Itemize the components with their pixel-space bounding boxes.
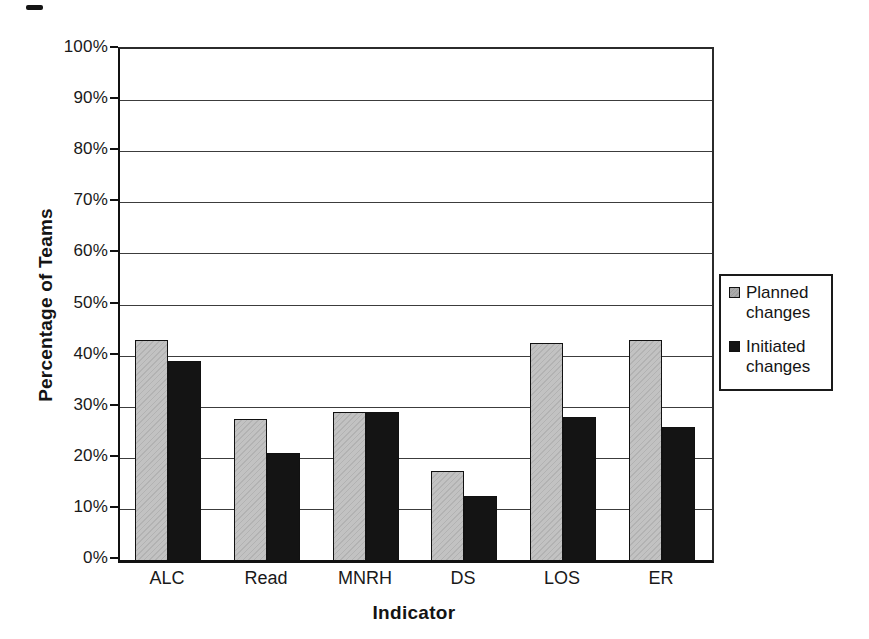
gridline-30 bbox=[120, 407, 712, 408]
y-tick-mark-20 bbox=[110, 455, 118, 457]
bar-group-alc bbox=[135, 340, 201, 560]
gridline-50 bbox=[120, 305, 712, 306]
y-tick-label-80: 80% bbox=[56, 140, 108, 158]
bar-initiated-ds bbox=[464, 496, 497, 560]
x-tick-label-er: ER bbox=[613, 568, 709, 589]
bar-planned-los bbox=[530, 343, 563, 560]
bar-initiated-alc bbox=[168, 361, 201, 560]
y-tick-label-20: 20% bbox=[56, 447, 108, 465]
legend-entry-initiated: Initiated changes bbox=[729, 337, 825, 377]
gridline-60 bbox=[120, 253, 712, 254]
bar-planned-alc bbox=[135, 340, 168, 560]
plot-area bbox=[118, 47, 714, 563]
bar-group-er bbox=[629, 340, 695, 560]
legend-entry-planned: Planned changes bbox=[729, 283, 825, 323]
bar-group-mnrh bbox=[333, 412, 399, 560]
gridline-40 bbox=[120, 356, 712, 357]
bar-chart-figure: Percentage of Teams 100%90%80%70%60%50%4… bbox=[0, 0, 869, 639]
bar-planned-read bbox=[234, 419, 267, 560]
y-tick-label-50: 50% bbox=[56, 294, 108, 312]
legend-label-planned: Planned changes bbox=[746, 283, 825, 323]
x-tick-label-mnrh: MNRH bbox=[317, 568, 413, 589]
gridline-70 bbox=[120, 202, 712, 203]
y-tick-mark-0 bbox=[110, 557, 118, 559]
y-tick-mark-70 bbox=[110, 199, 118, 201]
y-tick-mark-30 bbox=[110, 404, 118, 406]
initiated-swatch-icon bbox=[729, 341, 740, 352]
y-tick-label-40: 40% bbox=[56, 345, 108, 363]
x-tick-label-los: LOS bbox=[514, 568, 610, 589]
y-tick-label-0: 0% bbox=[56, 549, 108, 567]
y-tick-mark-80 bbox=[110, 148, 118, 150]
bar-initiated-er bbox=[662, 427, 695, 560]
y-tick-label-30: 30% bbox=[56, 396, 108, 414]
scan-artifact-mark bbox=[26, 5, 43, 10]
gridline-10 bbox=[120, 509, 712, 510]
bar-group-ds bbox=[431, 471, 497, 560]
y-tick-label-10: 10% bbox=[56, 498, 108, 516]
y-tick-label-90: 90% bbox=[56, 89, 108, 107]
gridline-80 bbox=[120, 151, 712, 152]
y-tick-mark-10 bbox=[110, 506, 118, 508]
x-axis-title: Indicator bbox=[314, 602, 514, 624]
gridline-20 bbox=[120, 458, 712, 459]
bar-planned-mnrh bbox=[333, 412, 366, 560]
bar-initiated-mnrh bbox=[366, 412, 399, 560]
planned-swatch-icon bbox=[729, 287, 740, 298]
y-tick-mark-40 bbox=[110, 353, 118, 355]
y-tick-mark-100 bbox=[110, 46, 118, 48]
gridline-90 bbox=[120, 100, 712, 101]
y-tick-label-60: 60% bbox=[56, 242, 108, 260]
bar-planned-er bbox=[629, 340, 662, 560]
bar-planned-ds bbox=[431, 471, 464, 560]
legend-label-initiated: Initiated changes bbox=[746, 337, 825, 377]
legend-box: Planned changesInitiated changes bbox=[719, 274, 833, 391]
x-tick-label-ds: DS bbox=[415, 568, 511, 589]
bar-initiated-los bbox=[563, 417, 596, 560]
bar-initiated-read bbox=[267, 453, 300, 560]
y-tick-label-70: 70% bbox=[56, 191, 108, 209]
y-tick-mark-50 bbox=[110, 302, 118, 304]
bar-group-read bbox=[234, 419, 300, 560]
y-tick-mark-90 bbox=[110, 97, 118, 99]
y-tick-label-100: 100% bbox=[56, 38, 108, 56]
x-tick-label-alc: ALC bbox=[119, 568, 215, 589]
bar-group-los bbox=[530, 343, 596, 560]
x-tick-label-read: Read bbox=[218, 568, 314, 589]
y-tick-mark-60 bbox=[110, 250, 118, 252]
